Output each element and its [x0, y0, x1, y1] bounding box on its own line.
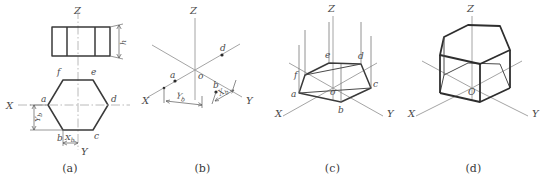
panel-d-z-axis-label: Z [466, 3, 475, 14]
point-label-d: d [220, 43, 226, 53]
point-d-marker [220, 53, 223, 56]
panel-a-caption: (a) [0, 162, 140, 175]
height-ext-top [110, 24, 123, 27]
panel-d-finished-prism: Z X Y O (d) [400, 0, 547, 185]
panel-d-x-axis-label: X [407, 108, 416, 119]
panel-b-z-axis-label: Z [189, 5, 198, 16]
panel-d-caption: (d) [400, 162, 547, 175]
panel-b-x-axis-label: X [141, 95, 150, 106]
panel-c-vertex-label-d: d [358, 51, 364, 61]
panel-c-vertex-label-f: f [293, 70, 299, 80]
vertex-label-b: b [57, 133, 63, 143]
yb-dimension: Yb [30, 105, 63, 130]
prism-top-face [440, 25, 510, 64]
panel-b-yb-label: Yb [175, 91, 186, 103]
height-ext-bottom [110, 56, 123, 59]
panel-c-x-axis-label: X [274, 108, 283, 119]
panel-b-yb-dimension: Yb [163, 87, 202, 108]
panel-b-origin-label: o [198, 71, 204, 81]
height-dimension: h [110, 24, 128, 59]
panel-c-vertex-label-b: b [338, 105, 344, 115]
panel-c-vertex-label-a: a [291, 89, 296, 99]
panel-a-x-axis-label: X [5, 100, 14, 111]
x-axis-line [416, 88, 472, 116]
x-axis-back-line [195, 44, 240, 70]
panel-c-origin-label: o [330, 87, 336, 97]
xb-dimension: Xb [63, 130, 78, 146]
vertex-label-d: d [111, 94, 117, 104]
height-label: h [119, 40, 128, 45]
vertex-label-a: a [41, 94, 46, 104]
vertex-label-f: f [56, 67, 62, 77]
front-view-outline [52, 27, 110, 56]
panel-c-hexagon-extrusion: Z X Y o a b c d e f (c) [265, 0, 400, 185]
top-hexagon-outline [440, 25, 510, 64]
panel-b-isometric-axes: Z X Y o d a b Yb Xb (b) [140, 0, 265, 185]
panel-d-drawing: Z X Y O [400, 0, 547, 165]
panel-b-caption: (b) [140, 162, 265, 175]
panel-d-origin-label: O [468, 87, 476, 97]
panel-c-vertex-label-c: c [373, 79, 378, 89]
panel-a-orthographic-views: h Z X Y a b c d e f Yb [0, 0, 140, 185]
panel-b-y-axis-label: Y [246, 95, 254, 106]
xb-ext-left [212, 92, 216, 104]
yb-label: Yb [33, 113, 43, 122]
panel-c-caption: (c) [265, 162, 400, 175]
x-axis-back-line [333, 63, 377, 88]
xb-label: Xb [64, 133, 75, 143]
vertex-label-e: e [91, 67, 96, 77]
panel-a-z-axis-label: Z [73, 5, 82, 16]
panel-b-drawing: Z X Y o d a b Yb Xb [140, 0, 265, 165]
panel-c-z-axis-label: Z [327, 3, 336, 14]
panel-d-y-axis-label: Y [532, 108, 540, 119]
front-view [52, 27, 110, 56]
vertex-label-c: c [94, 131, 99, 141]
point-label-a: a [170, 70, 175, 80]
panel-c-vertex-label-e: e [325, 50, 330, 60]
panel-c-drawing: Z X Y o a b c d e f [265, 0, 400, 165]
y-axis-back-line [152, 45, 195, 70]
panel-c-y-axis-label: Y [387, 108, 395, 119]
panel-a-y-axis-label: Y [81, 146, 89, 157]
isometric-axes [148, 18, 242, 100]
panel-a-drawing: h Z X Y a b c d e f Yb [0, 0, 140, 165]
